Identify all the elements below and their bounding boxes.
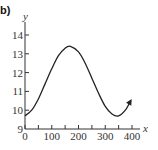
x-axis-label: x xyxy=(142,122,148,134)
ticks xyxy=(25,35,132,129)
x-tick-label: 300 xyxy=(97,130,114,142)
x-tick-label: 400 xyxy=(124,130,141,142)
y-tick-label: 14 xyxy=(12,29,24,41)
panel-label: b) xyxy=(0,4,11,16)
x-tick-label: 100 xyxy=(44,130,61,142)
y-axis-label: y xyxy=(22,10,28,22)
line-chart: b) 010020030040091011121314 x y xyxy=(0,0,158,150)
y-tick-label: 10 xyxy=(12,104,24,116)
x-tick-label: 200 xyxy=(70,130,87,142)
x-tick-label: 0 xyxy=(22,130,28,142)
y-tick-label: 9 xyxy=(18,123,24,135)
data-curve xyxy=(25,46,131,116)
y-tick-label: 11 xyxy=(12,85,23,97)
tick-labels: 010020030040091011121314 xyxy=(12,29,141,142)
y-tick-label: 13 xyxy=(12,48,24,60)
y-tick-label: 12 xyxy=(12,67,23,79)
